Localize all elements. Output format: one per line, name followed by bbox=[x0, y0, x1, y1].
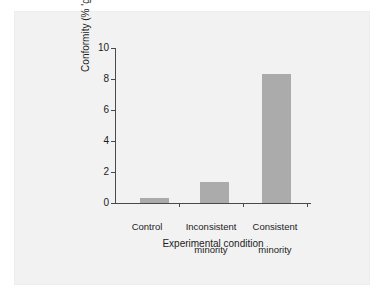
x-category-label-inconsistent-minority-line1: Inconsistent bbox=[179, 221, 243, 233]
bars-layer bbox=[115, 48, 310, 203]
x-axis-line bbox=[115, 203, 311, 204]
bar-inconsistent-minority bbox=[200, 182, 229, 203]
y-tick-label-4: 4 bbox=[103, 134, 109, 147]
plot-area: 10 8 6 4 2 0 bbox=[115, 48, 310, 203]
x-category-label-consistent-minority-line1: Consistent bbox=[243, 221, 307, 233]
x-axis-title: Experimental condition bbox=[115, 238, 311, 249]
x-tick-3 bbox=[307, 203, 308, 207]
y-tick-label-8: 8 bbox=[103, 72, 109, 85]
y-tick-label-6: 6 bbox=[103, 103, 109, 116]
y-axis-title: Conformity (% 'green' responses) bbox=[79, 0, 93, 76]
bar-consistent-minority bbox=[262, 74, 291, 203]
y-tick-label-0: 0 bbox=[103, 196, 109, 209]
figure-root: 10 8 6 4 2 0 bbox=[0, 0, 384, 297]
y-tick-label-10: 10 bbox=[98, 41, 109, 54]
y-tick-label-2: 2 bbox=[103, 165, 109, 178]
bar-control bbox=[140, 198, 169, 203]
x-category-label-control-line1: Control bbox=[115, 221, 179, 233]
x-tick-2 bbox=[243, 203, 244, 207]
x-tick-1 bbox=[179, 203, 180, 207]
